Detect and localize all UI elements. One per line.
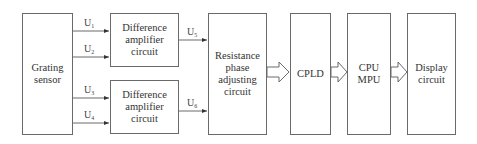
block-label: CPU MPU [358,62,381,86]
signal-label-u1: U1 [84,18,94,31]
signal-label-u5: U5 [187,27,197,40]
block-label: Display circuit [415,62,448,86]
display-circuit-block: Display circuit [407,13,456,135]
block-label: Difference amplifier circuit [122,22,167,58]
signal-label-u2: U2 [84,44,94,57]
block-label: Resistance phase adjusting circuit [215,50,260,98]
signal-label-u4: U4 [84,110,94,123]
hollow-arrow-icon [331,62,347,82]
block-label: Grating sensor [31,62,63,86]
signal-label-u6: U6 [187,98,197,111]
difference-amplifier-block-1: Difference amplifier circuit [110,13,179,67]
block-label: Difference amplifier circuit [122,89,167,125]
signal-label-u3: U3 [84,85,94,98]
grating-sensor-block: Grating sensor [22,13,73,135]
block-label: CPLD [297,68,324,80]
cpld-block: CPLD [290,13,331,135]
difference-amplifier-block-2: Difference amplifier circuit [110,80,179,134]
hollow-arrow-icon [391,62,407,82]
cpu-mpu-block: CPU MPU [347,13,391,135]
hollow-arrow-icon [267,62,289,82]
resistance-phase-block: Resistance phase adjusting circuit [208,13,267,135]
